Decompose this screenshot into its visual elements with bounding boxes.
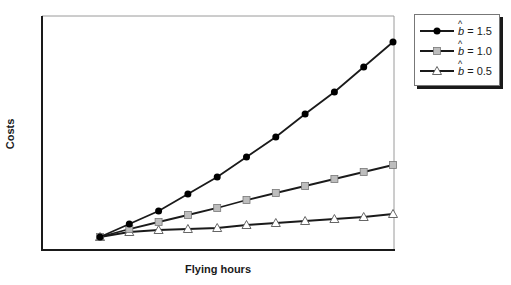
circle-marker-icon [360,64,367,71]
x-axis-label: Flying hours [185,263,251,275]
circle-marker-icon [126,221,133,228]
circle-marker-icon [272,134,279,141]
circle-marker-icon [390,39,397,46]
square-marker-icon [360,169,367,176]
square-marker-icon [331,176,338,183]
triangle-marker-icon [420,64,456,78]
square-marker-icon [420,44,456,58]
circle-marker-icon [97,234,104,241]
circle-marker-icon [184,191,191,198]
series-circle [97,39,397,241]
circle-marker-icon [155,208,162,215]
square-marker-icon [155,219,162,226]
square-marker-icon [243,197,250,204]
square-marker-icon [272,190,279,197]
legend-label: b = 0.5 [458,64,492,78]
square-marker-icon [390,162,397,169]
circle-marker-icon [243,154,250,161]
square-marker-icon [184,212,191,219]
y-axis-label: Costs [4,119,16,150]
legend: b = 1.5 b = 1.0 b = 0.5 [414,14,500,86]
circle-marker-icon [420,24,456,38]
circle-marker-icon [302,111,309,118]
series-layer [96,39,398,241]
legend-item-b-0-5: b = 0.5 [420,64,498,78]
legend-item-b-1-0: b = 1.0 [420,44,498,58]
legend-item-b-1-5: b = 1.5 [420,24,498,38]
square-marker-icon [302,183,309,190]
square-marker-icon [214,205,221,212]
legend-label: b = 1.5 [458,24,492,38]
legend-label: b = 1.0 [458,44,492,58]
series-triangle [96,210,398,241]
circle-marker-icon [214,174,221,181]
circle-marker-icon [331,89,338,96]
